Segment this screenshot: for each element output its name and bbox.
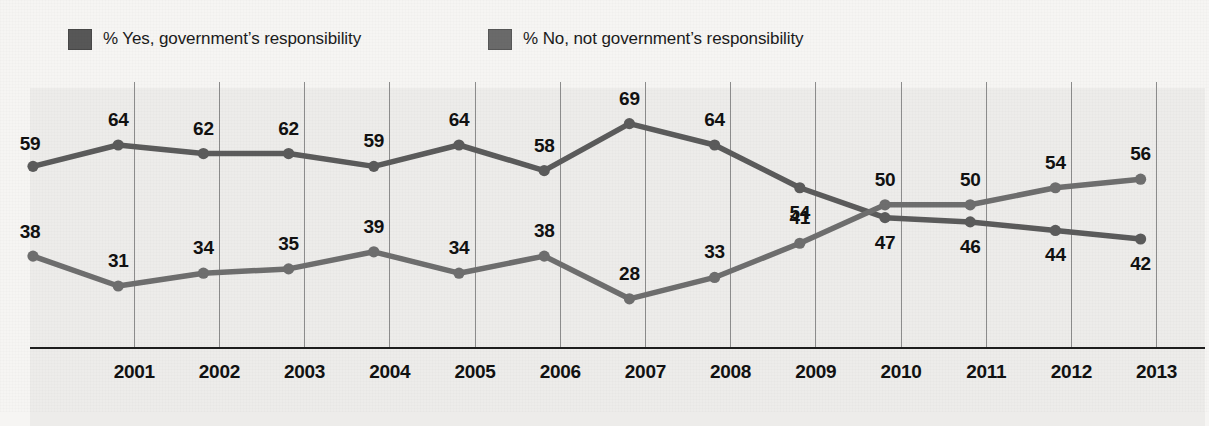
xaxis-tick-labels: 2001200220032004200520062007200820092010…	[0, 361, 1209, 401]
data-point[interactable]	[624, 293, 635, 304]
data-point[interactable]	[1050, 182, 1061, 193]
data-label: 58	[534, 135, 555, 157]
data-label: 28	[619, 263, 640, 285]
data-label: 59	[20, 133, 41, 155]
legend-label-yes: % Yes, government’s responsibility	[103, 29, 361, 49]
legend-item-yes[interactable]: % Yes, government’s responsibility	[68, 29, 361, 50]
xaxis-tick-2002: 2002	[199, 361, 240, 383]
xaxis-tick-2005: 2005	[454, 361, 495, 383]
data-label: 31	[108, 250, 129, 272]
data-label: 38	[534, 220, 555, 242]
data-point[interactable]	[879, 212, 890, 223]
data-label: 46	[960, 236, 981, 258]
data-point[interactable]	[453, 268, 464, 279]
legend-item-no[interactable]: % No, not government’s responsibility	[488, 29, 803, 50]
data-label: 47	[875, 232, 896, 254]
data-label: 33	[704, 241, 725, 263]
data-point[interactable]	[453, 139, 464, 150]
data-point[interactable]	[965, 199, 976, 210]
data-point[interactable]	[794, 238, 805, 249]
data-point[interactable]	[1135, 233, 1146, 244]
data-point[interactable]	[709, 139, 720, 150]
data-point[interactable]	[283, 148, 294, 159]
data-point[interactable]	[283, 263, 294, 274]
data-point[interactable]	[539, 165, 550, 176]
xaxis-tick-2007: 2007	[625, 361, 666, 383]
xaxis-tick-2001: 2001	[114, 361, 155, 383]
data-label: 44	[1045, 244, 1066, 266]
data-point[interactable]	[198, 268, 209, 279]
data-label: 59	[364, 130, 385, 152]
legend-label-no: % No, not government’s responsibility	[523, 29, 803, 49]
xaxis-tick-2003: 2003	[284, 361, 325, 383]
line-chart: 5964626259645869645447464442383134353934…	[0, 78, 1209, 412]
data-label: 64	[108, 109, 129, 131]
data-point[interactable]	[198, 148, 209, 159]
data-label: 64	[704, 109, 725, 131]
data-point[interactable]	[1135, 174, 1146, 185]
data-point[interactable]	[539, 250, 550, 261]
data-label: 69	[619, 88, 640, 110]
data-label: 34	[193, 237, 214, 259]
xaxis-tick-2013: 2013	[1136, 361, 1177, 383]
data-label: 38	[20, 221, 41, 243]
xaxis-tick-2012: 2012	[1051, 361, 1092, 383]
xaxis-tick-2010: 2010	[880, 361, 921, 383]
data-label: 56	[1130, 143, 1151, 165]
data-point[interactable]	[965, 216, 976, 227]
data-label: 34	[449, 237, 470, 259]
data-point[interactable]	[27, 161, 38, 172]
data-point[interactable]	[368, 246, 379, 257]
data-label: 41	[790, 207, 811, 229]
data-label: 50	[875, 169, 896, 191]
data-point[interactable]	[624, 118, 635, 129]
data-label: 35	[278, 233, 299, 255]
data-label: 42	[1130, 253, 1151, 275]
legend-swatch-no-icon	[488, 29, 512, 50]
data-label: 64	[449, 109, 470, 131]
data-point[interactable]	[1050, 225, 1061, 236]
chart-legend: % Yes, government’s responsibility % No,…	[0, 22, 1209, 56]
xaxis-tick-2011: 2011	[966, 361, 1006, 383]
data-point[interactable]	[27, 250, 38, 261]
xaxis-tick-2009: 2009	[795, 361, 836, 383]
data-point[interactable]	[368, 161, 379, 172]
data-point[interactable]	[879, 199, 890, 210]
xaxis-tick-2008: 2008	[710, 361, 751, 383]
data-point[interactable]	[113, 139, 124, 150]
data-label: 50	[960, 169, 981, 191]
data-label: 39	[364, 216, 385, 238]
data-point[interactable]	[794, 182, 805, 193]
data-point[interactable]	[709, 272, 720, 283]
data-label: 62	[193, 118, 214, 140]
legend-swatch-yes-icon	[68, 29, 92, 50]
xaxis-tick-2006: 2006	[540, 361, 581, 383]
data-label: 62	[278, 118, 299, 140]
data-point[interactable]	[113, 280, 124, 291]
data-label: 54	[1045, 152, 1066, 174]
xaxis-tick-2004: 2004	[369, 361, 410, 383]
